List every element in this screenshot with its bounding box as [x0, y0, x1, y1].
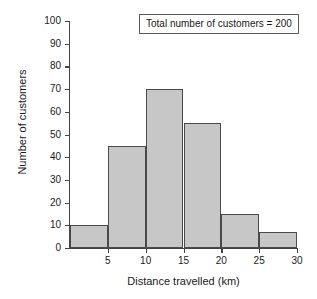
y-tick-mark [65, 180, 70, 181]
y-tick-label: 60 [50, 107, 61, 117]
x-tick-mark [221, 248, 222, 253]
x-tick-label: 20 [216, 256, 227, 266]
y-tick-label: 100 [44, 16, 61, 26]
x-axis-title: Distance travelled (km) [70, 275, 297, 287]
histogram-bar [108, 146, 146, 248]
y-tick-mark [65, 203, 70, 204]
y-axis-title: Number of customers [16, 42, 28, 202]
y-tick-label: 0 [55, 243, 61, 253]
x-tick-mark [146, 248, 147, 253]
y-tick-mark [65, 135, 70, 136]
x-tick-label: 25 [254, 256, 265, 266]
y-tick-mark [65, 157, 70, 158]
histogram-bar [259, 232, 297, 248]
x-tick-mark [108, 248, 109, 253]
histogram-bar [184, 123, 222, 248]
y-tick-label: 70 [50, 84, 61, 94]
x-tick-mark [259, 248, 260, 253]
y-tick-label: 10 [50, 220, 61, 230]
plot-area: 010203040506070809010051015202530 [70, 21, 297, 248]
y-tick-label: 50 [50, 130, 61, 140]
y-tick-label: 20 [50, 198, 61, 208]
y-tick-mark [65, 225, 70, 226]
y-tick-label: 90 [50, 39, 61, 49]
x-tick-mark [184, 248, 185, 253]
x-tick-label: 15 [178, 256, 189, 266]
y-tick-mark [65, 89, 70, 90]
histogram-bar [146, 89, 184, 248]
histogram-chart: 010203040506070809010051015202530 Number… [0, 0, 317, 299]
y-tick-label: 30 [50, 175, 61, 185]
x-tick-label: 30 [291, 256, 302, 266]
histogram-bar [70, 225, 108, 248]
y-tick-mark [65, 21, 70, 22]
x-tick-label: 5 [105, 256, 111, 266]
y-tick-label: 80 [50, 61, 61, 71]
total-customers-annotation: Total number of customers = 200 [139, 14, 299, 34]
y-tick-mark [65, 112, 70, 113]
y-tick-mark [65, 248, 70, 249]
histogram-bar [221, 214, 259, 248]
x-tick-mark [297, 248, 298, 253]
y-tick-mark [65, 66, 70, 67]
x-tick-label: 10 [140, 256, 151, 266]
y-tick-mark [65, 44, 70, 45]
y-tick-label: 40 [50, 152, 61, 162]
